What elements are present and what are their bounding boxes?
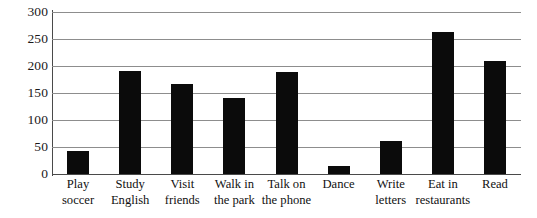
- gridline-0: [52, 174, 521, 175]
- bar-chart: 050100150200250300 Play soccerStudy Engl…: [0, 0, 537, 218]
- y-tick-label-50: 50: [4, 140, 48, 154]
- plot-area: [52, 12, 521, 174]
- bar-5: [328, 166, 350, 174]
- y-tick-label-100: 100: [4, 113, 48, 127]
- gridline-300: [52, 12, 521, 13]
- y-tick-label-200: 200: [4, 59, 48, 73]
- bar-6: [380, 141, 402, 174]
- y-tick-label-150: 150: [4, 86, 48, 100]
- bar-8: [484, 61, 506, 174]
- x-label-8: Read: [464, 177, 526, 193]
- bar-4: [276, 72, 298, 174]
- x-axis-category-labels: Play soccerStudy EnglishVisit friendsWal…: [52, 177, 521, 218]
- bar-7: [432, 32, 454, 174]
- bar-2: [171, 84, 193, 174]
- y-tick-label-250: 250: [4, 32, 48, 46]
- y-tick-label-300: 300: [4, 5, 48, 19]
- bar-3: [223, 98, 245, 174]
- bar-1: [119, 71, 141, 174]
- bar-0: [67, 151, 89, 174]
- y-axis-tick-labels: 050100150200250300: [0, 0, 48, 218]
- y-tick-label-0: 0: [4, 167, 48, 181]
